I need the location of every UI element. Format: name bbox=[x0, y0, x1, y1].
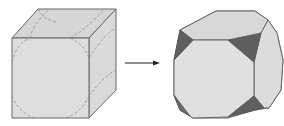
arrow-head-icon bbox=[153, 61, 160, 66]
transform-arrow bbox=[125, 61, 160, 66]
truncated-cube bbox=[174, 11, 283, 118]
cube-front-face bbox=[12, 38, 89, 118]
cube bbox=[12, 9, 116, 118]
diagram-canvas bbox=[0, 0, 284, 126]
